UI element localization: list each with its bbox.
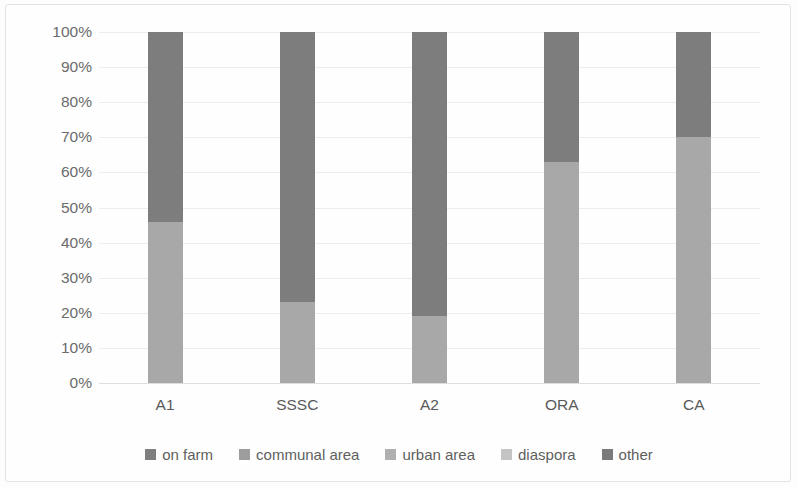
- bar-segment-other: [280, 32, 315, 302]
- y-axis-label: 90%: [30, 58, 92, 76]
- bar-segment-diaspora: [676, 137, 711, 383]
- bar-segment-diaspora: [412, 316, 447, 383]
- y-axis-label: 20%: [30, 304, 92, 322]
- legend-swatch-icon: [145, 449, 156, 460]
- bar-segment-diaspora: [148, 222, 183, 383]
- bar-ora: [544, 32, 579, 383]
- bar-ca: [676, 32, 711, 383]
- legend-label: urban area: [402, 446, 475, 463]
- legend-item-on-farm[interactable]: on farm: [145, 446, 213, 463]
- legend-label: other: [619, 446, 653, 463]
- legend-swatch-icon: [602, 449, 613, 460]
- bar-segment-diaspora: [280, 302, 315, 383]
- y-axis-label: 30%: [30, 269, 92, 287]
- legend-label: diaspora: [518, 446, 576, 463]
- y-axis-label: 60%: [30, 163, 92, 181]
- legend-label: communal area: [256, 446, 359, 463]
- legend-item-communal-area[interactable]: communal area: [239, 446, 359, 463]
- x-axis-line: [99, 383, 760, 384]
- x-axis-label-ca: CA: [634, 396, 754, 414]
- legend-label: on farm: [162, 446, 213, 463]
- y-axis-label: 70%: [30, 128, 92, 146]
- y-axis-label: 100%: [30, 23, 92, 41]
- legend-swatch-icon: [501, 449, 512, 460]
- bar-a1: [148, 32, 183, 383]
- x-axis-label-a1: A1: [105, 396, 225, 414]
- y-axis-label: 50%: [30, 199, 92, 217]
- legend-item-other[interactable]: other: [602, 446, 653, 463]
- bar-segment-diaspora: [544, 162, 579, 383]
- x-axis-label-sssc: SSSC: [237, 396, 357, 414]
- y-axis-label: 0%: [30, 374, 92, 392]
- y-axis-label: 10%: [30, 339, 92, 357]
- plot-area: [99, 32, 760, 383]
- chart-legend: on farmcommunal areaurban areadiasporaot…: [0, 446, 798, 463]
- bar-segment-other: [676, 32, 711, 137]
- y-axis-tick-labels: 100%90%80%70%60%50%40%30%20%10%0%: [24, 32, 92, 383]
- y-axis-label: 40%: [30, 234, 92, 252]
- legend-item-urban-area[interactable]: urban area: [385, 446, 475, 463]
- x-axis-label-ora: ORA: [502, 396, 622, 414]
- bar-a2: [412, 32, 447, 383]
- y-axis-label: 80%: [30, 93, 92, 111]
- legend-item-diaspora[interactable]: diaspora: [501, 446, 576, 463]
- bar-segment-other: [412, 32, 447, 316]
- chart-container: 100%90%80%70%60%50%40%30%20%10%0% A1SSSC…: [0, 0, 798, 487]
- bar-segment-other: [148, 32, 183, 222]
- x-axis-label-a2: A2: [370, 396, 490, 414]
- legend-swatch-icon: [385, 449, 396, 460]
- legend-swatch-icon: [239, 449, 250, 460]
- bar-sssc: [280, 32, 315, 383]
- bar-segment-other: [544, 32, 579, 162]
